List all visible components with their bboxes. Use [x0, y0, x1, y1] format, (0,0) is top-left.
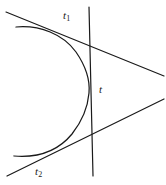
- geometry-drawing: [0, 0, 166, 185]
- figure-canvas: t1 t t2: [0, 0, 166, 185]
- label-t1-subscript: 1: [66, 14, 70, 23]
- open-curve: [14, 27, 89, 157]
- label-t: t: [99, 84, 102, 97]
- tangent-line-t1: [6, 12, 164, 76]
- label-t1: t1: [63, 10, 70, 23]
- label-t2-subscript: 2: [38, 170, 42, 179]
- label-t2: t2: [35, 166, 42, 179]
